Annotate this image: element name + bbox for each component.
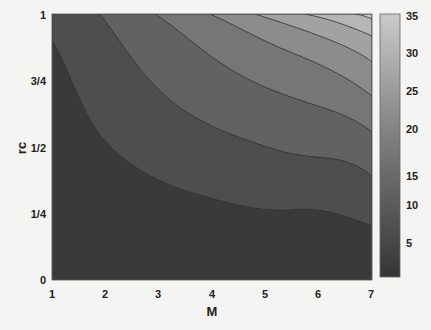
x-axis: 1 2 3 4 5 6 7 M bbox=[49, 288, 374, 319]
y-axis: 1 3/4 1/2 1/4 0 rc bbox=[14, 9, 47, 286]
colorbar: 35 30 25 20 15 10 5 bbox=[380, 10, 418, 277]
colorbar-tick: 5 bbox=[406, 237, 412, 249]
y-tick: 1/4 bbox=[31, 208, 47, 220]
contour-bands bbox=[52, 14, 372, 280]
x-axis-label: M bbox=[207, 304, 218, 319]
colorbar-tick: 10 bbox=[406, 199, 418, 211]
colorbar-gradient bbox=[380, 14, 400, 277]
x-tick: 7 bbox=[368, 288, 374, 300]
y-tick: 1 bbox=[40, 9, 46, 21]
y-axis-label: rc bbox=[14, 142, 29, 154]
y-tick: 3/4 bbox=[31, 75, 47, 87]
x-tick: 3 bbox=[155, 288, 161, 300]
colorbar-tick: 35 bbox=[406, 10, 418, 22]
x-tick: 2 bbox=[102, 288, 108, 300]
colorbar-tick: 15 bbox=[406, 170, 418, 182]
x-tick: 6 bbox=[315, 288, 321, 300]
x-tick: 4 bbox=[209, 288, 216, 300]
colorbar-tick: 20 bbox=[406, 123, 418, 135]
x-tick: 1 bbox=[49, 288, 55, 300]
colorbar-tick: 25 bbox=[406, 85, 418, 97]
y-tick: 1/2 bbox=[31, 142, 46, 154]
colorbar-tick: 30 bbox=[406, 47, 418, 59]
contour-chart: 1 3/4 1/2 1/4 0 rc 1 2 3 4 5 6 7 M 35 30… bbox=[0, 0, 431, 330]
y-tick: 0 bbox=[40, 274, 46, 286]
x-tick: 5 bbox=[262, 288, 268, 300]
